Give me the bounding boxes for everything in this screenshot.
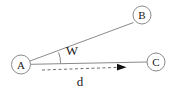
- node-label-a: A: [17, 59, 25, 71]
- angle-arc: [59, 52, 61, 63]
- displacement-dashed-line: [42, 67, 117, 70]
- angle-diagram: A B C W d: [0, 0, 171, 92]
- node-label-b: B: [138, 9, 145, 21]
- arrowhead-icon: [117, 64, 127, 71]
- node-label-c: C: [152, 56, 159, 68]
- distance-label: d: [77, 74, 84, 89]
- angle-label: W: [66, 43, 79, 58]
- ray-a-b: [30, 23, 134, 62]
- ray-a-c: [31, 62, 148, 64]
